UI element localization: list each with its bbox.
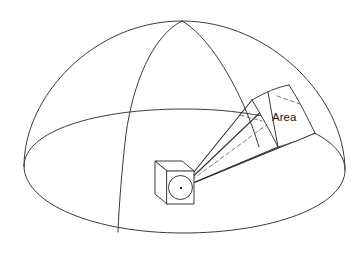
area-patch-group: Area xyxy=(240,85,315,147)
sensor-apex-point xyxy=(180,187,182,189)
dome-outline xyxy=(24,21,345,170)
sensor-box-group xyxy=(155,161,194,204)
figure-root: Area xyxy=(0,0,364,253)
area-label: Area xyxy=(272,111,297,123)
solid-angle-diagram: Area xyxy=(0,0,364,253)
back-meridian-arc xyxy=(182,21,259,147)
area-patch-guide-dash-lower xyxy=(240,115,262,121)
cone-ray-lower-left xyxy=(181,147,278,188)
